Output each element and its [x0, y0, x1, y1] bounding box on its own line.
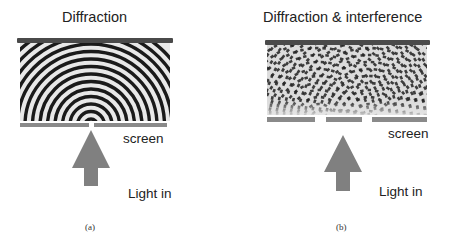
panel-a-caption: (a) — [85, 222, 95, 232]
panel-a-screen-left — [20, 123, 89, 127]
panel-b-light-arrow-icon — [323, 135, 363, 192]
panel-a-light-arrow-icon — [71, 130, 111, 188]
panel-b-light-label: Light in — [379, 184, 423, 199]
panel-a-screen-label: screen — [123, 131, 164, 146]
panel-a-light-label: Light in — [128, 186, 172, 201]
panel-a-screen-right — [94, 123, 167, 127]
panel-b-screen-left — [267, 117, 315, 122]
panel-b-screen-label: screen — [388, 126, 429, 141]
panel-b-title: Diffraction & interference — [263, 9, 422, 25]
panel-b-screen-middle — [326, 117, 362, 122]
panel-b-screen-right — [372, 117, 427, 122]
panel-b-interference-pattern — [267, 45, 427, 115]
panel-a-wave-pattern — [20, 43, 170, 121]
panel-a-title: Diffraction — [62, 9, 127, 25]
panel-b-caption: (b) — [336, 222, 347, 232]
